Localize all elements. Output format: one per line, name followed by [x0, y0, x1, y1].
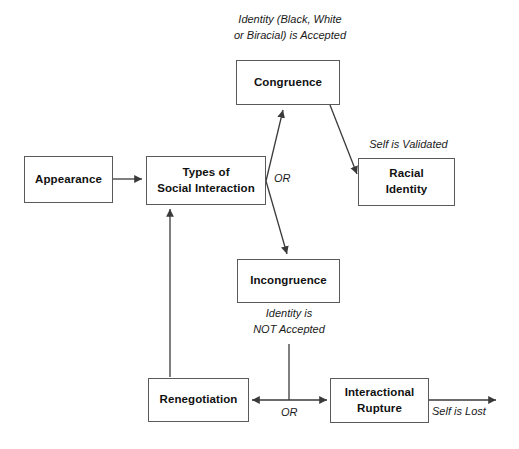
- node-incongruence-label: Incongruence: [250, 273, 327, 289]
- diagram-canvas: Appearance Types of Social Interaction C…: [0, 0, 519, 449]
- edge-label-self-is-validated: Self is Validated: [346, 137, 471, 153]
- edge-types-to-incongruence: [266, 181, 287, 254]
- node-congruence-label: Congruence: [254, 75, 322, 91]
- edge-label-identity-accepted: Identity (Black, White or Biracial) is A…: [190, 12, 390, 44]
- node-racial-identity-label: Racial Identity: [386, 166, 428, 197]
- node-racial-identity[interactable]: Racial Identity: [358, 158, 455, 206]
- node-renegotiation-label: Renegotiation: [160, 392, 238, 408]
- node-appearance-label: Appearance: [35, 172, 102, 188]
- node-types-of-social-interaction-label: Types of Social Interaction: [157, 165, 255, 196]
- node-interactional-rupture-label: Interactional Rupture: [345, 385, 415, 416]
- edge-label-identity-not-accepted: Identity is NOT Accepted: [234, 306, 344, 338]
- node-appearance[interactable]: Appearance: [24, 156, 113, 203]
- edge-types-to-congruence: [266, 110, 283, 181]
- node-congruence[interactable]: Congruence: [236, 60, 340, 105]
- or-label-rupture-branch: OR: [281, 406, 298, 418]
- or-label-congruence-branch: OR: [274, 172, 291, 184]
- node-interactional-rupture[interactable]: Interactional Rupture: [330, 378, 429, 423]
- edge-label-self-is-lost: Self is Lost: [432, 404, 512, 420]
- node-renegotiation[interactable]: Renegotiation: [148, 378, 249, 422]
- node-types-of-social-interaction[interactable]: Types of Social Interaction: [146, 156, 266, 205]
- node-incongruence[interactable]: Incongruence: [237, 259, 340, 303]
